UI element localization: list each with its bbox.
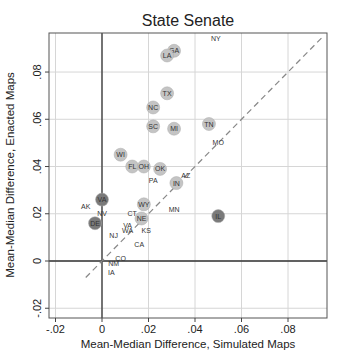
y-tick-label: .06 [31,112,43,127]
data-point: IA [108,269,115,276]
data-point: NV [97,210,107,217]
data-point: VA [96,193,109,206]
point-label: OH [139,163,150,170]
x-tick-label: -.02 [46,323,65,335]
scatter-chart: State Senate -.020.02.04.06.08 -.020.02.… [0,0,345,364]
point-label: MI [170,125,178,132]
data-point: OH [137,160,150,173]
point-label: WA [122,227,133,234]
point-label: FL [128,163,136,170]
point-label: IN [173,180,180,187]
y-axis-label: Mean-Median Difference, Enacted Maps [4,72,16,278]
point-label: NM [108,260,119,267]
point-label: MN [169,206,180,213]
y-tick-label: .02 [31,206,43,221]
data-point: NY [211,35,221,42]
point-label: VA [98,196,107,203]
point-label: NY [211,35,221,42]
data-point: SC [147,120,160,133]
point-label: LA [163,52,172,59]
point-label: AZ [181,172,191,179]
data-point: WY [137,198,150,211]
data-point: NJ [109,232,118,239]
data-point: TX [161,87,174,100]
data-point: KS [142,227,152,234]
data-point: AZ [181,172,191,179]
point-label: WI [116,151,125,158]
y-tick-label: -.02 [31,299,43,318]
point-label: TN [204,121,213,128]
data-point: MO [213,139,225,146]
data-point: NC [147,101,160,114]
chart-title: State Senate [142,12,235,29]
point-label: WY [138,201,150,208]
point-label: KS [142,227,152,234]
point-label: TX [163,90,172,97]
data-point: OK [154,162,167,175]
y-tick-label: 0 [31,258,43,264]
point-label: NC [148,104,158,111]
data-point: AK [81,203,91,210]
y-axis: -.020.02.04.06.08 [31,64,49,317]
point-label: MO [213,139,225,146]
y-tick-label: .04 [31,159,43,174]
data-point: DE [89,217,102,230]
point-label: NE [137,215,147,222]
data-point: IL [212,210,225,223]
x-tick-label: .06 [234,323,249,335]
point-label: CA [134,241,144,248]
data-point: CA [134,241,144,248]
point-label: IL [215,213,221,220]
data-point: MN [169,206,180,213]
point-label: PA [149,177,158,184]
y-tick-label: .08 [31,64,43,79]
data-point: TN [202,118,215,131]
point-label: OK [155,165,165,172]
x-axis-label: Mean-Median Difference, Simulated Maps [81,338,296,350]
point-label: DE [90,220,100,227]
x-tick-label: .08 [280,323,295,335]
data-point: LA [161,49,174,62]
point-label: IA [108,269,115,276]
data-point: NE [135,212,148,225]
data-point: WA [122,227,133,234]
data-point: FL [126,160,139,173]
point-label: AK [81,203,91,210]
data-point: NM [108,260,119,267]
point-label: SC [148,123,158,130]
point-label: NJ [109,232,118,239]
point-label: NV [97,210,107,217]
data-point: PA [149,177,158,184]
data-point: IN [170,177,183,190]
data-point: MI [168,122,181,135]
data-point: WI [114,148,127,161]
x-tick-label: 0 [99,323,105,335]
x-tick-label: .04 [187,323,202,335]
x-axis: -.020.02.04.06.08 [46,318,296,335]
x-tick-label: .02 [141,323,156,335]
